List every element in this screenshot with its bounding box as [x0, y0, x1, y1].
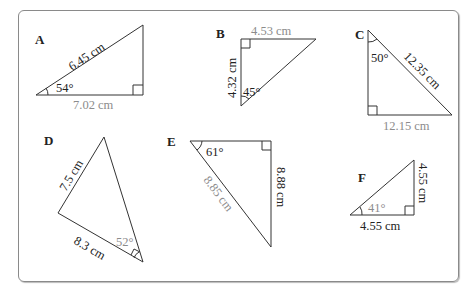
triangle-b-angle: 45° — [243, 85, 261, 99]
right-angle-marker — [368, 106, 377, 115]
triangle-c-hypotenuse: 12.35 cm — [401, 49, 444, 92]
triangle-b-label: B — [216, 26, 225, 41]
angle-arc — [46, 88, 48, 95]
triangle-d-label: D — [44, 133, 53, 148]
angle-arc — [360, 207, 362, 215]
triangle-c: C 50° 12.35 cm 12.15 cm — [355, 27, 452, 133]
angle-arc — [368, 39, 377, 42]
triangle-b-top: 4.53 cm — [251, 24, 292, 38]
triangle-c-shape — [368, 30, 452, 115]
triangle-e-side: 8.88 cm — [274, 167, 288, 208]
triangle-e-label: E — [167, 134, 176, 149]
right-angle-marker — [241, 39, 250, 48]
triangle-d-bottom: 8.3 cm — [72, 233, 109, 262]
triangle-a-label: A — [35, 32, 45, 47]
triangle-f-side: 4.55 cm — [416, 163, 430, 204]
right-angle-marker — [262, 141, 271, 150]
triangle-c-angle: 50° — [371, 51, 389, 65]
triangle-a-base: 7.02 cm — [73, 98, 114, 112]
triangle-b: B 45° 4.53 cm 4.32 cm — [216, 24, 316, 106]
triangle-c-label: C — [355, 27, 364, 42]
triangle-d-angle: 52° — [116, 235, 134, 249]
triangle-a-angle: 54° — [56, 81, 74, 95]
triangle-d-left: 7.5 cm — [57, 157, 87, 194]
triangle-e-angle: 61° — [206, 145, 224, 159]
triangles-diagram: A 54° 6.45 cm 7.02 cm B 45° 4.53 cm 4.32… — [0, 0, 473, 296]
triangle-f-label: F — [358, 170, 366, 185]
triangle-a-hypotenuse: 6.45 cm — [66, 40, 108, 74]
triangle-e-shape — [190, 141, 271, 247]
triangle-f-base: 4.55 cm — [360, 219, 401, 233]
triangle-f-angle: 41° — [368, 201, 386, 215]
angle-arc — [134, 252, 139, 258]
triangle-f: F 41° 4.55 cm 4.55 cm — [350, 160, 430, 233]
triangle-a: A 54° 6.45 cm 7.02 cm — [35, 25, 143, 112]
right-angle-marker — [405, 206, 414, 215]
triangle-b-side: 4.32 cm — [225, 57, 239, 98]
right-angle-marker — [133, 85, 143, 95]
triangle-c-base: 12.15 cm — [383, 119, 430, 133]
triangle-d: D 52° 7.5 cm 8.3 cm — [44, 133, 143, 263]
angle-arc — [197, 141, 202, 150]
triangle-e: E 61° 8.85 cm 8.88 cm — [167, 134, 288, 247]
